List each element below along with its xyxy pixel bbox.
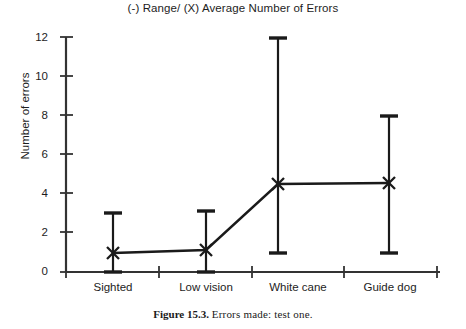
figure-number: Figure 15.3. [153,308,209,320]
error-bar-white-cane [269,38,287,253]
figure-container: (-) Range/ (X) Average Number of Errors … [0,0,466,329]
figure-caption: Figure 15.3. Errors made: test one. [0,308,466,320]
series-line [113,183,389,253]
figure-caption-text: Errors made: test one. [212,308,313,320]
error-bar-low-vision [197,211,215,272]
plot-area [0,0,466,329]
error-bar-sighted [104,213,122,272]
